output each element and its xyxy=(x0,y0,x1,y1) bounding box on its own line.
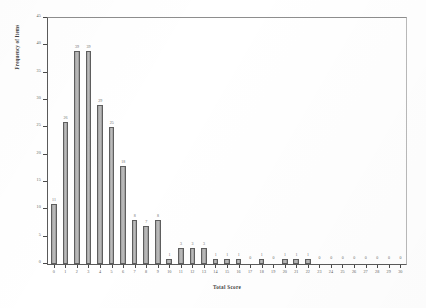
x-tick-mark xyxy=(158,265,159,268)
bar-value-label: 8 xyxy=(148,214,168,219)
y-tick-mark xyxy=(43,17,47,18)
x-tick-mark xyxy=(342,265,343,268)
x-tick-mark xyxy=(146,265,147,268)
y-axis-title: Frequency of Items xyxy=(14,2,20,92)
bar-group: 7 xyxy=(143,18,149,264)
x-tick-mark xyxy=(181,265,182,268)
histogram-bar[interactable] xyxy=(86,51,92,264)
bar-group: 26 xyxy=(63,18,69,264)
x-tick-mark xyxy=(366,265,367,268)
histogram-bar[interactable] xyxy=(109,127,115,264)
histogram-bar[interactable] xyxy=(97,105,103,264)
y-tick-mark xyxy=(43,181,47,182)
histogram-figure: 051015202530354045 Frequency of Items 11… xyxy=(0,0,426,308)
bar-group: 29 xyxy=(97,18,103,264)
plot-area: 11263939292518878133311101011100000000 xyxy=(48,18,406,264)
bar-value-label: 25 xyxy=(102,121,122,126)
x-tick-mark xyxy=(400,265,401,268)
bar-group: 0 xyxy=(328,18,334,264)
bar-group: 39 xyxy=(74,18,80,264)
y-tick-mark xyxy=(43,72,47,73)
bar-group: 11 xyxy=(51,18,57,264)
bar-group: 0 xyxy=(247,18,253,264)
x-axis-title: Total Score xyxy=(48,284,406,290)
histogram-bar[interactable] xyxy=(224,259,230,264)
y-tick-mark xyxy=(43,44,47,45)
x-tick-mark xyxy=(273,265,274,268)
bar-group: 0 xyxy=(351,18,357,264)
y-tick-label: 0 xyxy=(39,259,41,264)
x-tick-mark xyxy=(135,265,136,268)
x-tick-mark xyxy=(204,265,205,268)
y-tick-mark xyxy=(43,99,47,100)
bar-group: 1 xyxy=(305,18,311,264)
y-tick-mark xyxy=(43,263,47,264)
bar-group: 0 xyxy=(386,18,392,264)
y-tick-label: 35 xyxy=(37,68,41,73)
bar-group: 3 xyxy=(201,18,207,264)
y-axis: 051015202530354045 xyxy=(0,17,47,266)
histogram-bar[interactable] xyxy=(63,122,69,264)
x-tick-mark xyxy=(319,265,320,268)
bar-group: 1 xyxy=(282,18,288,264)
bar-value-label: 3 xyxy=(194,242,214,247)
bar-group: 0 xyxy=(317,18,323,264)
y-tick-mark xyxy=(43,126,47,127)
bar-value-label: 8 xyxy=(125,214,145,219)
bar-group: 3 xyxy=(178,18,184,264)
y-tick-label: 15 xyxy=(37,177,41,182)
bar-value-label: 39 xyxy=(79,45,99,50)
bar-value-label: 26 xyxy=(56,116,76,121)
histogram-bar[interactable] xyxy=(178,248,184,264)
bar-value-label: 0 xyxy=(390,256,410,261)
x-tick-mark xyxy=(285,265,286,268)
bar-group: 1 xyxy=(259,18,265,264)
bar-value-label: 29 xyxy=(90,99,110,104)
y-tick-label: 20 xyxy=(37,150,41,155)
y-tick-label: 30 xyxy=(37,95,41,100)
y-tick-label: 45 xyxy=(37,13,41,18)
bar-group: 1 xyxy=(236,18,242,264)
bar-group: 18 xyxy=(120,18,126,264)
x-tick-mark xyxy=(112,265,113,268)
bar-group: 1 xyxy=(213,18,219,264)
x-tick-mark xyxy=(227,265,228,268)
bar-group: 25 xyxy=(109,18,115,264)
bar-group: 0 xyxy=(363,18,369,264)
histogram-bar[interactable] xyxy=(132,220,138,264)
x-tick-mark xyxy=(54,265,55,268)
histogram-bar[interactable] xyxy=(143,226,149,264)
bar-group: 3 xyxy=(190,18,196,264)
bar-value-label: 1 xyxy=(159,253,179,258)
histogram-bar[interactable] xyxy=(282,259,288,264)
x-tick-label: 30 xyxy=(393,269,407,274)
histogram-bar[interactable] xyxy=(166,259,172,264)
x-tick-mark xyxy=(377,265,378,268)
bar-group: 8 xyxy=(132,18,138,264)
bar-value-label: 18 xyxy=(113,160,133,165)
bar-group: 0 xyxy=(374,18,380,264)
x-tick-mark xyxy=(354,265,355,268)
bar-group: 1 xyxy=(166,18,172,264)
x-tick-mark xyxy=(308,265,309,268)
y-tick-label: 40 xyxy=(37,40,41,45)
y-tick-mark xyxy=(43,236,47,237)
y-tick-label: 5 xyxy=(39,232,41,237)
bar-group: 0 xyxy=(340,18,346,264)
y-tick-label: 25 xyxy=(37,122,41,127)
y-tick-label: 10 xyxy=(37,204,41,209)
bar-value-label: 11 xyxy=(44,198,64,203)
histogram-bar[interactable] xyxy=(51,204,57,264)
y-tick-mark xyxy=(43,208,47,209)
histogram-bar[interactable] xyxy=(293,259,299,264)
x-tick-mark xyxy=(100,265,101,268)
histogram-bar[interactable] xyxy=(213,259,219,264)
x-tick-mark xyxy=(123,265,124,268)
x-tick-mark xyxy=(77,265,78,268)
histogram-bar[interactable] xyxy=(190,248,196,264)
x-tick-mark xyxy=(215,265,216,268)
histogram-bar[interactable] xyxy=(74,51,80,264)
x-tick-mark xyxy=(239,265,240,268)
histogram-bar[interactable] xyxy=(155,220,161,264)
bar-group: 1 xyxy=(293,18,299,264)
